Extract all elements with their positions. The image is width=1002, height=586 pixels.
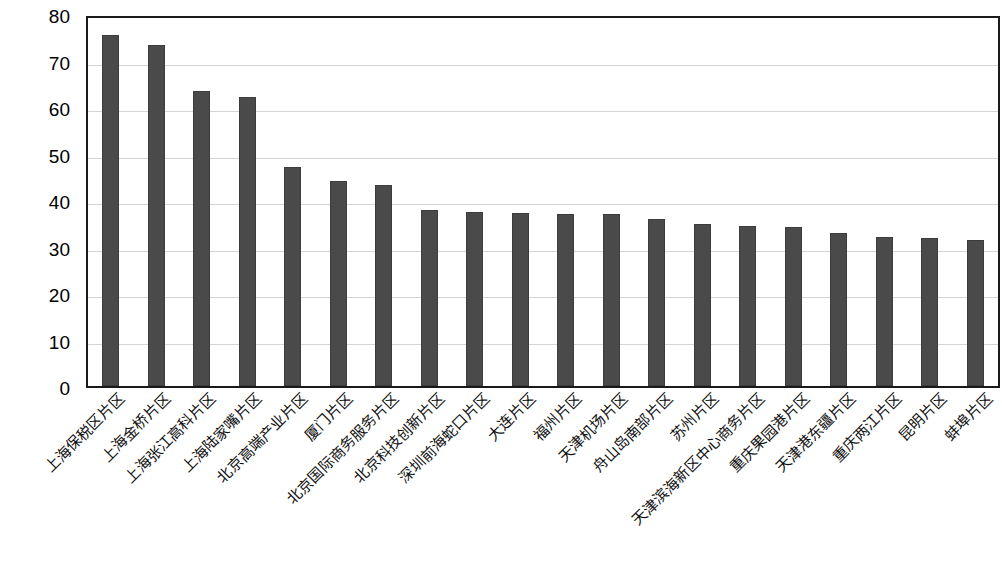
bar-slot (771, 18, 817, 386)
bar[interactable] (148, 45, 165, 386)
x-tick-label: 深圳前海蛇口片区 (397, 390, 493, 486)
bar[interactable] (284, 167, 301, 386)
bar[interactable] (876, 237, 893, 386)
bar[interactable] (239, 97, 256, 386)
x-axis-labels: 上海保税区片区上海金桥片区上海张江高科片区上海陆家嘴片区北京高端产业片区厦门片区… (86, 390, 1000, 586)
bar[interactable] (102, 35, 119, 386)
x-tick-label: 北京高端产业片区 (214, 390, 310, 486)
x-tick-label: 大连片区 (485, 390, 539, 444)
bar-slot (452, 18, 498, 386)
bar[interactable] (785, 227, 802, 386)
bar-slot (907, 18, 953, 386)
y-tick-label: 80 (49, 7, 70, 26)
x-tick-label: 蚌埠片区 (942, 390, 996, 444)
y-tick-label: 50 (49, 146, 70, 165)
bar-slot (953, 18, 999, 386)
bar-slot (88, 18, 134, 386)
y-tick-label: 70 (49, 53, 70, 72)
y-tick-label: 60 (49, 100, 70, 119)
bar-slot (316, 18, 362, 386)
bar[interactable] (648, 219, 665, 386)
bar[interactable] (694, 224, 711, 386)
bar-slot (862, 18, 908, 386)
y-tick-label: 0 (59, 379, 70, 398)
bar-slot (407, 18, 453, 386)
x-tick-label: 昆明片区 (896, 390, 950, 444)
y-axis: 80706050403020100 (0, 0, 78, 586)
bar-slot (589, 18, 635, 386)
bar-slot (270, 18, 316, 386)
bar[interactable] (739, 226, 756, 386)
bar-slot (543, 18, 589, 386)
y-tick-label: 40 (49, 193, 70, 212)
y-tick-label: 20 (49, 286, 70, 305)
bar-slot (361, 18, 407, 386)
bar-slot (725, 18, 771, 386)
y-tick-label: 10 (49, 332, 70, 351)
bar[interactable] (466, 212, 483, 386)
bar-slot (498, 18, 544, 386)
bar-slot (134, 18, 180, 386)
bar-slot (680, 18, 726, 386)
y-tick-label: 30 (49, 239, 70, 258)
bar[interactable] (512, 213, 529, 386)
bar[interactable] (830, 233, 847, 386)
bar[interactable] (330, 181, 347, 386)
bar[interactable] (921, 238, 938, 386)
bar[interactable] (557, 214, 574, 387)
bar-slot (634, 18, 680, 386)
bar[interactable] (967, 240, 984, 386)
bar-chart: 80706050403020100 上海保税区片区上海金桥片区上海张江高科片区上… (0, 0, 1002, 586)
bars-layer (88, 18, 998, 386)
bar[interactable] (375, 185, 392, 386)
bar[interactable] (193, 91, 210, 386)
bar-slot (816, 18, 862, 386)
bar-slot (179, 18, 225, 386)
bar[interactable] (421, 210, 438, 386)
bar[interactable] (603, 214, 620, 387)
bar-slot (225, 18, 271, 386)
plot-area (86, 16, 1000, 388)
